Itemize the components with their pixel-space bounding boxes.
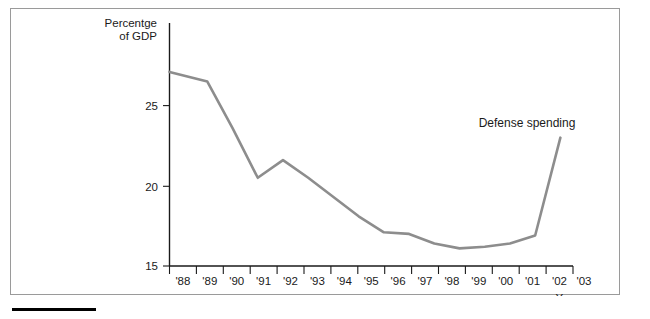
y-axis-label-line1: Percentge <box>105 17 157 29</box>
x-tick-label-8: '96 <box>391 275 406 287</box>
x-tick-label-13: '01 <box>525 275 540 287</box>
chart-frame: Percentge of GDP 25 20 15 <box>10 8 620 295</box>
x-axis-title: Year <box>555 292 578 296</box>
figure-root: Percentge of GDP 25 20 15 <box>0 0 650 319</box>
x-tick-label-10: '98 <box>444 275 459 287</box>
defense-spending-line <box>170 72 561 248</box>
x-tick-label-2: '90 <box>229 275 244 287</box>
y-tick-label-20: 20 <box>145 181 158 193</box>
x-tick-label-14: '02 <box>552 275 567 287</box>
y-axis-label-line2: of GDP <box>119 30 157 42</box>
y-tick-label-15: 15 <box>145 260 158 272</box>
x-tick-label-5: '93 <box>310 275 325 287</box>
x-tick-label-1: '89 <box>202 275 217 287</box>
defense-spending-annotation: Defense spending <box>479 116 576 130</box>
x-tick-label-11: '99 <box>471 275 486 287</box>
x-tick-label-6: '94 <box>337 275 353 287</box>
x-tick-label-0: '88 <box>175 275 190 287</box>
x-tick-label-9: '97 <box>418 275 433 287</box>
x-tick-label-4: '92 <box>283 275 298 287</box>
x-tick-label-3: '91 <box>256 275 271 287</box>
y-tick-label-25: 25 <box>145 100 158 112</box>
x-tick-label-15: '03 <box>577 275 592 287</box>
x-tick-marks <box>170 266 574 274</box>
x-tick-label-12: '00 <box>498 275 513 287</box>
x-tick-label-7: '95 <box>364 275 379 287</box>
footnote-separator-rule <box>12 308 96 311</box>
defense-spending-line-chart: Percentge of GDP 25 20 15 <box>11 9 621 296</box>
